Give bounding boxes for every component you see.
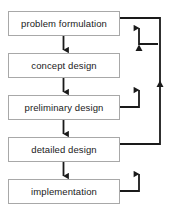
edge-problem-to-concept-arrowhead	[136, 45, 143, 52]
node-implementation[interactable]: implementation	[8, 179, 120, 204]
node-label-preliminary-design: preliminary design	[25, 103, 104, 113]
edge-problem-to-concept-feedback	[139, 28, 158, 44]
node-concept-design[interactable]: concept design	[8, 53, 120, 78]
edge-detailed-to-problem-arrowhead	[157, 81, 164, 88]
node-detailed-design[interactable]: detailed design	[8, 137, 120, 162]
node-label-implementation: implementation	[31, 187, 97, 197]
edge-implementation-to-detailed-feedback	[120, 174, 139, 191]
edge-detailed-to-problem-feedback	[120, 18, 160, 144]
node-preliminary-design[interactable]: preliminary design	[8, 95, 120, 120]
node-problem-formulation[interactable]: problem formulation	[8, 11, 120, 36]
node-label-concept-design: concept design	[31, 61, 96, 71]
node-label-problem-formulation: problem formulation	[21, 19, 107, 29]
edge-preliminary-to-concept-feedback	[120, 90, 139, 107]
diagram-canvas: problem formulation concept design preli…	[0, 0, 172, 216]
node-label-detailed-design: detailed design	[31, 145, 96, 155]
